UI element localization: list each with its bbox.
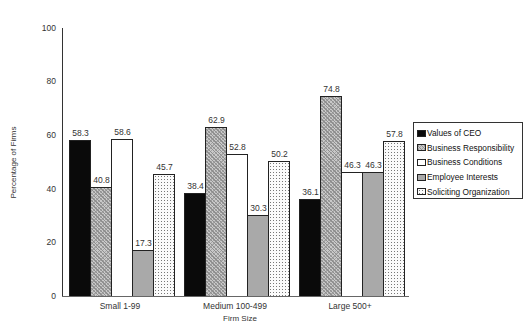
legend-swatch-dots	[417, 188, 426, 195]
bar-value-label: 74.8	[317, 84, 347, 94]
legend: Values of CEO Business Responsibility Bu…	[413, 122, 523, 199]
y-tick-40: 40	[30, 184, 56, 194]
legend-swatch-white	[417, 159, 426, 166]
legend-swatch-gray	[417, 174, 426, 181]
y-axis-label: Percentage of Firms	[9, 108, 18, 218]
bar	[383, 141, 405, 297]
bar-value-label: 58.6	[108, 127, 138, 137]
y-tick-100: 100	[30, 23, 56, 33]
legend-label: Values of CEO	[427, 128, 481, 138]
bar	[69, 140, 91, 297]
legend-item-soliciting-organization: Soliciting Organization	[417, 184, 522, 199]
x-axis-label: Firm Size	[185, 314, 295, 322]
category-label-medium: Medium 100-499	[180, 301, 290, 311]
bar-value-label: 58.3	[66, 128, 96, 138]
bar-value-label: 62.9	[202, 115, 232, 125]
bar	[153, 174, 175, 297]
bar	[184, 193, 206, 297]
bar	[320, 96, 342, 297]
y-tick-0: 0	[30, 291, 56, 301]
legend-swatch-black	[417, 130, 426, 137]
bar	[226, 154, 248, 297]
bar	[90, 187, 112, 297]
category-label-large: Large 500+	[295, 301, 405, 311]
y-tick-20: 20	[30, 237, 56, 247]
bar	[341, 172, 363, 297]
bar-value-label: 50.2	[265, 149, 295, 159]
bar	[247, 215, 269, 297]
bar	[362, 172, 384, 297]
bar-value-label: 57.8	[380, 129, 410, 139]
y-tick-80: 80	[30, 76, 56, 86]
y-axis-line	[62, 28, 63, 297]
legend-item-employee-interests: Employee Interests	[417, 170, 522, 185]
bar	[132, 250, 154, 297]
bar	[299, 199, 321, 297]
category-label-small: Small 1-99	[65, 301, 175, 311]
y-tick-60: 60	[30, 130, 56, 140]
bar-value-label: 45.7	[150, 162, 180, 172]
bar	[205, 127, 227, 297]
bar	[268, 161, 290, 297]
legend-label: Business Responsibility	[427, 143, 514, 153]
x-axis-line	[62, 296, 409, 297]
legend-label: Business Conditions	[427, 157, 502, 167]
legend-label: Soliciting Organization	[427, 187, 510, 197]
legend-item-business-responsibility: Business Responsibility	[417, 141, 522, 156]
bar	[111, 139, 133, 297]
legend-label: Employee Interests	[427, 172, 498, 182]
legend-swatch-hatch	[417, 144, 426, 151]
legend-item-business-conditions: Business Conditions	[417, 155, 522, 170]
legend-item-values-of-ceo: Values of CEO	[417, 126, 522, 141]
bar-value-label: 52.8	[223, 142, 253, 152]
